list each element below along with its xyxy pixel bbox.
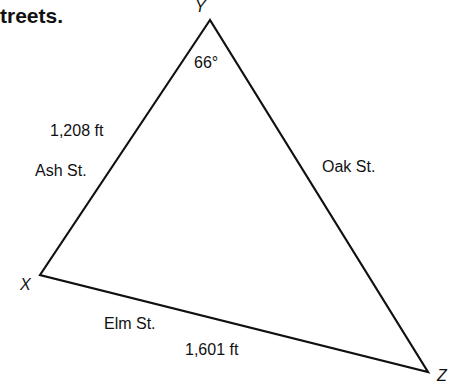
vertex-y-label: Y	[195, 0, 206, 16]
oak-street-label: Oak St.	[322, 158, 375, 176]
elm-street-label: Elm St.	[104, 315, 156, 333]
triangle	[0, 0, 455, 387]
angle-y-label: 66°	[194, 54, 218, 72]
vertex-z-label: Z	[437, 367, 447, 385]
ash-length-label: 1,208 ft	[50, 122, 103, 140]
ash-street-label: Ash St.	[35, 162, 87, 180]
elm-length-label: 1,601 ft	[185, 341, 238, 359]
vertex-x-label: X	[20, 276, 31, 294]
